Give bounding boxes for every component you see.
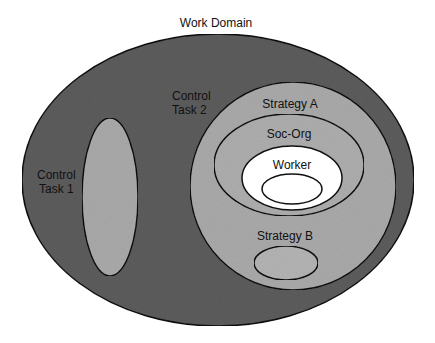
worker-label: Worker (273, 158, 311, 172)
strategy-b-region (254, 246, 318, 280)
control-task-1-region (82, 118, 138, 276)
worker-inner-region (262, 174, 322, 204)
control-task-2-label-line1: Control (172, 89, 211, 103)
work-domain-diagram: Work Domain Control Task 2 Strategy A So… (0, 0, 435, 343)
strategy-b-label: Strategy B (257, 229, 313, 243)
control-task-2-label-line2: Task 2 (172, 103, 207, 117)
work-domain-label: Work Domain (180, 16, 252, 30)
control-task-1-label-line2: Task 1 (39, 182, 74, 196)
soc-org-label: Soc-Org (267, 127, 312, 141)
control-task-1-label-line1: Control (37, 168, 76, 182)
strategy-a-label: Strategy A (262, 97, 317, 111)
